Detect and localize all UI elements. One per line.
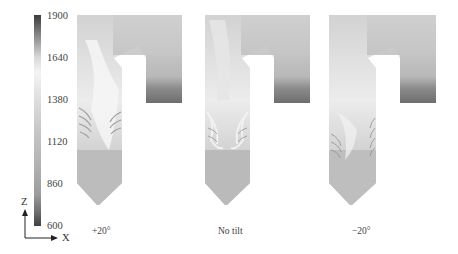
z-axis-label: Z [21, 196, 27, 207]
coordinate-axes-icon [0, 0, 80, 254]
panel-no-tilt: No tilt [205, 0, 325, 254]
panel-plus-20: +20° [77, 0, 197, 254]
furnace-contour-plot [205, 0, 325, 220]
panel-label: No tilt [218, 226, 243, 236]
panel-label: −20° [352, 226, 371, 236]
panel-minus-20: −20° [329, 0, 449, 254]
furnace-contour-plot [329, 0, 449, 220]
furnace-contour-plot [77, 0, 197, 220]
x-axis-label: X [62, 232, 70, 243]
panel-label: +20° [92, 226, 111, 236]
